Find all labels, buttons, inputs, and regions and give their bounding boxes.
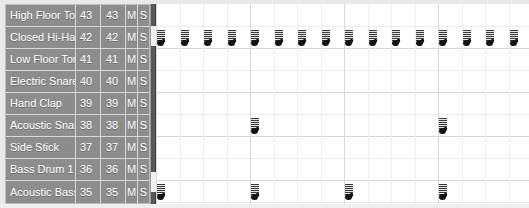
- solo-button[interactable]: S: [138, 27, 149, 48]
- note-marker[interactable]: [275, 30, 283, 46]
- grid-horizontal-line: [156, 180, 529, 181]
- note-marker[interactable]: [157, 184, 165, 200]
- note-marker[interactable]: [345, 30, 353, 46]
- note-head-icon: [439, 40, 447, 46]
- note-head-icon: [181, 40, 189, 46]
- track-name-label: Low Floor Tom: [6, 49, 76, 70]
- note-head-icon: [157, 194, 165, 200]
- note-marker[interactable]: [369, 30, 377, 46]
- grid-horizontal-line: [156, 158, 529, 159]
- grid-horizontal-line: [156, 48, 529, 49]
- track-row[interactable]: Side Stick3737MS: [6, 137, 149, 159]
- note-marker[interactable]: [439, 30, 447, 46]
- solo-button[interactable]: S: [138, 5, 149, 26]
- track-name-label: Acoustic Snare: [6, 115, 76, 136]
- note-head-icon: [322, 40, 330, 46]
- track-row[interactable]: Closed Hi-Hat4242MS: [6, 27, 149, 49]
- track-name-label: Electric Snare: [6, 71, 76, 92]
- solo-button[interactable]: S: [138, 181, 149, 203]
- note-head-icon: [251, 128, 259, 134]
- note-marker[interactable]: [486, 30, 494, 46]
- solo-button[interactable]: S: [138, 137, 149, 158]
- note-head-icon: [157, 40, 165, 46]
- note-marker[interactable]: [510, 30, 518, 46]
- note-head-icon: [439, 128, 447, 134]
- note-head-icon: [204, 40, 212, 46]
- mute-button[interactable]: M: [126, 5, 138, 26]
- note-marker[interactable]: [251, 184, 259, 200]
- mute-button[interactable]: M: [126, 137, 138, 158]
- track-note-number[interactable]: 42: [76, 27, 101, 48]
- mute-button[interactable]: M: [126, 159, 138, 180]
- note-marker[interactable]: [345, 184, 353, 200]
- track-note-number[interactable]: 39: [76, 93, 101, 114]
- track-note-number-alt[interactable]: 43: [101, 5, 126, 26]
- mute-button[interactable]: M: [126, 49, 138, 70]
- note-head-icon: [439, 194, 447, 200]
- note-marker[interactable]: [157, 30, 165, 46]
- track-name-label: Closed Hi-Hat: [6, 27, 76, 48]
- track-row[interactable]: Acoustic Snare3838MS: [6, 115, 149, 137]
- note-marker[interactable]: [181, 30, 189, 46]
- solo-button[interactable]: S: [138, 49, 149, 70]
- note-head-icon: [345, 40, 353, 46]
- mute-button[interactable]: M: [126, 93, 138, 114]
- note-head-icon: [251, 40, 259, 46]
- track-note-number-alt[interactable]: 40: [101, 71, 126, 92]
- track-note-number-alt[interactable]: 42: [101, 27, 126, 48]
- note-marker[interactable]: [228, 30, 236, 46]
- track-name-label: Bass Drum 1: [6, 159, 76, 180]
- mute-button[interactable]: M: [126, 27, 138, 48]
- track-note-number[interactable]: 41: [76, 49, 101, 70]
- note-marker[interactable]: [463, 30, 471, 46]
- track-note-number[interactable]: 37: [76, 137, 101, 158]
- note-head-icon: [416, 40, 424, 46]
- track-note-number[interactable]: 38: [76, 115, 101, 136]
- track-note-number-alt[interactable]: 36: [101, 159, 126, 180]
- note-marker[interactable]: [251, 118, 259, 134]
- track-note-number-alt[interactable]: 35: [101, 181, 126, 203]
- mute-button[interactable]: M: [126, 181, 138, 203]
- note-head-icon: [275, 40, 283, 46]
- note-head-icon: [369, 40, 377, 46]
- track-row[interactable]: Hand Clap3939MS: [6, 93, 149, 115]
- track-row[interactable]: Electric Snare4040MS: [6, 71, 149, 93]
- track-row[interactable]: Bass Drum 13636MS: [6, 159, 149, 181]
- note-marker[interactable]: [204, 30, 212, 46]
- note-marker[interactable]: [322, 30, 330, 46]
- note-head-icon: [392, 40, 400, 46]
- piano-roll-grid[interactable]: [156, 4, 529, 204]
- grid-horizontal-line: [156, 26, 529, 27]
- solo-button[interactable]: S: [138, 93, 149, 114]
- note-marker[interactable]: [251, 30, 259, 46]
- mute-button[interactable]: M: [126, 115, 138, 136]
- drum-editor-window: High Floor Tom4343MSClosed Hi-Hat4242MSL…: [0, 0, 529, 208]
- note-head-icon: [228, 40, 236, 46]
- note-head-icon: [251, 194, 259, 200]
- track-row[interactable]: High Floor Tom4343MS: [6, 5, 149, 27]
- grid-horizontal-line: [156, 92, 529, 93]
- track-row[interactable]: Low Floor Tom4141MS: [6, 49, 149, 71]
- note-marker[interactable]: [439, 118, 447, 134]
- track-note-number-alt[interactable]: 39: [101, 93, 126, 114]
- track-name-label: Side Stick: [6, 137, 76, 158]
- track-name-label: Hand Clap: [6, 93, 76, 114]
- track-name-label: High Floor Tom: [6, 5, 76, 26]
- note-marker[interactable]: [392, 30, 400, 46]
- grid-horizontal-line: [156, 202, 529, 203]
- track-note-number[interactable]: 43: [76, 5, 101, 26]
- track-note-number-alt[interactable]: 37: [101, 137, 126, 158]
- track-row[interactable]: Acoustic Bass Drum3535MS: [6, 181, 149, 203]
- note-marker[interactable]: [439, 184, 447, 200]
- solo-button[interactable]: S: [138, 159, 149, 180]
- track-note-number-alt[interactable]: 41: [101, 49, 126, 70]
- track-note-number[interactable]: 40: [76, 71, 101, 92]
- solo-button[interactable]: S: [138, 71, 149, 92]
- track-note-number[interactable]: 36: [76, 159, 101, 180]
- track-note-number-alt[interactable]: 38: [101, 115, 126, 136]
- note-marker[interactable]: [416, 30, 424, 46]
- mute-button[interactable]: M: [126, 71, 138, 92]
- note-marker[interactable]: [298, 30, 306, 46]
- solo-button[interactable]: S: [138, 115, 149, 136]
- track-note-number[interactable]: 35: [76, 181, 101, 203]
